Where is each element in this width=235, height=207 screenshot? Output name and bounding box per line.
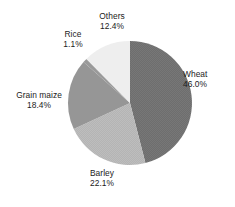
pie-label-rice-name: Rice xyxy=(48,29,98,39)
pie-label-grain-maize-name: Grain maize xyxy=(4,90,74,100)
pie-label-wheat-percent: 46.0% xyxy=(183,79,233,89)
pie-label-rice-percent: 1.1% xyxy=(48,39,98,49)
pie-label-grain-maize: Grain maize 18.4% xyxy=(4,90,74,111)
pie-label-wheat: Wheat 46.0% xyxy=(183,69,233,90)
pie-label-barley-percent: 22.1% xyxy=(76,178,128,188)
pie-label-barley: Barley 22.1% xyxy=(76,168,128,189)
pie-label-rice: Rice 1.1% xyxy=(48,29,98,50)
pie-slices xyxy=(68,41,192,165)
pie-label-others-name: Others xyxy=(84,11,140,21)
pie-label-wheat-name: Wheat xyxy=(183,69,233,79)
pie-label-barley-name: Barley xyxy=(76,168,128,178)
pie-label-grain-maize-percent: 18.4% xyxy=(4,100,74,110)
pie-chart: Others 12.4% Rice 1.1% Wheat 46.0% Grain… xyxy=(0,0,235,207)
